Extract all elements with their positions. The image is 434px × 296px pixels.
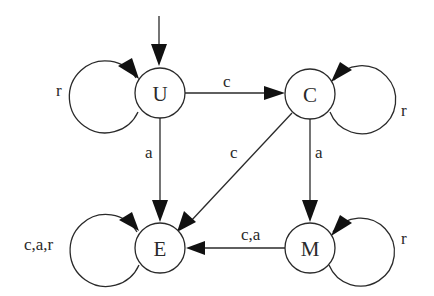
arrowhead-icon [118,58,139,79]
edge-C-M-label: a [315,143,323,162]
loop-C-label: r [401,101,407,120]
state-C: C [285,69,335,119]
arrowhead-icon [331,62,352,82]
arrowhead-icon [302,200,318,222]
loop-E [70,212,139,286]
arrowhead-icon [186,241,205,255]
arrowhead-icon [119,212,139,231]
arrowhead-icon [264,86,285,100]
edge-M-E-label: c,a [241,225,261,244]
edge-U-E [152,118,168,222]
state-M-label: M [301,237,320,261]
loop-U [69,58,139,133]
loop-M-label: r [401,229,407,248]
state-U: U [135,68,185,118]
state-diagram: U C E M r c a r c a c,a,r c,a r [0,0,434,296]
state-C-label: C [303,83,317,107]
state-E: E [135,223,185,273]
edge-U-E-label: a [145,143,153,162]
loop-E-label: c,a,r [24,235,54,254]
loop-U-label: r [56,81,62,100]
arrowhead-icon [177,211,196,232]
loop-M [329,215,394,286]
edge-C-M [302,119,318,222]
arrowhead-icon [152,200,168,222]
edge-U-C-label: c [223,72,231,91]
state-E-label: E [154,237,167,261]
edge-C-E [177,113,292,232]
loop-C [330,62,396,134]
initial-arrow [151,16,167,66]
edge-M-E [186,241,285,255]
state-M: M [285,223,335,273]
edge-C-E-label: c [230,143,238,162]
arrowhead-icon [331,215,352,236]
arrowhead-icon [151,44,167,66]
state-U-label: U [152,82,167,106]
edge-U-C [185,86,285,100]
